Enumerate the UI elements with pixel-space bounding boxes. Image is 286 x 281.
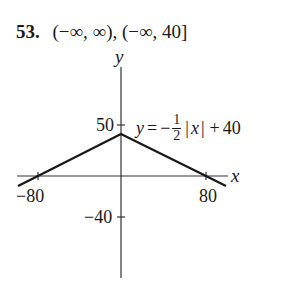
eq-abs-open: | (185, 119, 189, 137)
eq-abs-close: | (201, 119, 205, 137)
eq-frac-den: 2 (173, 129, 180, 144)
equation-label: y = − 1 2 | x | + 40 (136, 113, 241, 143)
x-tick-label-neg80: −80 (16, 186, 44, 206)
eq-abs-var: x (191, 119, 199, 137)
eq-sign: − (160, 119, 170, 137)
eq-constant: 40 (223, 119, 241, 137)
x-tick-label-80: 80 (199, 186, 217, 206)
eq-plus: + (210, 119, 220, 137)
eq-frac-num: 1 (173, 113, 180, 128)
y-tick-label-neg40: −40 (84, 207, 112, 227)
x-axis-label: x (230, 165, 240, 186)
y-tick-label-50: 50 (96, 115, 114, 135)
eq-equals: = (147, 119, 157, 137)
y-axis-label: y (113, 46, 124, 67)
eq-fraction: 1 2 (172, 113, 181, 143)
eq-lhs: y (136, 119, 144, 137)
